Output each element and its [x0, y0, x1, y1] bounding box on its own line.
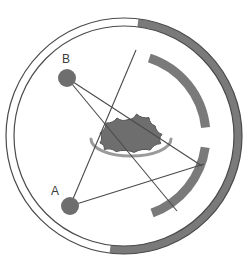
upper-sector-arc — [149, 58, 205, 127]
node-b-label: B — [62, 52, 70, 66]
line-b-to-mid-right — [67, 78, 202, 166]
node-a-label: A — [51, 184, 59, 198]
lower-sector-arc — [152, 147, 205, 213]
line-a-to-mid-right — [70, 164, 204, 206]
radar-diagram: BA — [0, 0, 252, 271]
node-a[interactable] — [61, 197, 79, 215]
diagram-canvas: BA — [0, 0, 252, 271]
node-b[interactable] — [58, 69, 76, 87]
line-b-to-lower-tip — [67, 78, 177, 211]
node-markers: BA — [51, 52, 79, 215]
